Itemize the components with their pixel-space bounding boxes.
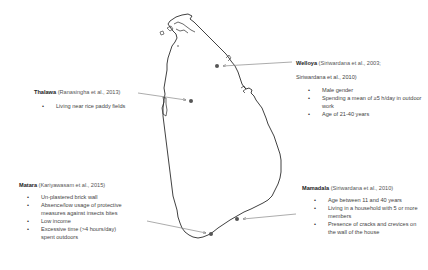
small-island — [160, 31, 164, 35]
matara-marker — [209, 232, 213, 236]
thalawa-reference: (Ranasingha et al., 2013) — [58, 89, 121, 95]
matara-annotation: Matara (Kariyawasam et al., 2015) Un-pla… — [19, 181, 149, 241]
matara-factor-list: Un-plastered brick wall Absence/low usag… — [19, 193, 149, 241]
small-island-dot — [177, 45, 178, 46]
puttalam-lagoon — [162, 97, 167, 116]
list-item: Male gender — [322, 86, 426, 94]
welloya-title: Welloya (Siriwardana et al., 2003; — [296, 59, 426, 67]
welloya-reference-2: Siriwardana et al., 2010) — [296, 73, 426, 81]
welloya-reference-1: (Siriwardana et al., 2003; — [319, 60, 381, 66]
list-item: Un-plastered brick wall — [41, 193, 149, 201]
thalawa-annotation: Thalawa (Ranasingha et al., 2013) Living… — [34, 88, 144, 110]
mamadala-factor-list: Age between 11 and 40 years Living in a … — [302, 196, 426, 236]
peninsula-detail — [174, 22, 195, 33]
list-item: Excessive time (>4 hours/day) spent outd… — [41, 225, 129, 241]
thalawa-title: Thalawa (Ranasingha et al., 2013) — [34, 88, 144, 96]
matara-arrow — [147, 221, 206, 233]
welloya-name: Welloya — [296, 60, 317, 66]
list-item: Low income — [41, 217, 149, 225]
thalawa-arrow — [138, 93, 186, 100]
mamadala-name: Mamadala — [302, 185, 329, 191]
thalawa-factor-list: Living near rice paddy fields — [34, 102, 144, 110]
welloya-factor-list: Male gender Spending a mean of ≥5 h/day … — [296, 86, 426, 118]
thalawa-name: Thalawa — [34, 89, 56, 95]
mamadala-marker — [235, 217, 239, 221]
matara-name: Matara — [19, 182, 37, 188]
list-item: Spending a mean of ≥5 h/day in outdoor w… — [322, 94, 422, 110]
list-item: Living near rice paddy fields — [56, 102, 131, 110]
matara-title: Matara (Kariyawasam et al., 2015) — [19, 181, 149, 189]
mamadala-title: Mamadala (Siriwardana et al., 2010) — [302, 184, 426, 192]
thalawa-marker — [189, 99, 193, 103]
list-item: Absence/low usage of protective measures… — [41, 201, 137, 217]
mamadala-reference: (Siriwardana et al., 2010) — [331, 185, 394, 191]
matara-reference: (Kariyawasam et al., 2015) — [39, 182, 106, 188]
list-item: Age of 21-40 years — [322, 110, 426, 118]
welloya-annotation: Welloya (Siriwardana et al., 2003; Siriw… — [296, 59, 426, 118]
welloya-marker — [215, 64, 219, 68]
mamadala-annotation: Mamadala (Siriwardana et al., 2010) Age … — [302, 184, 426, 236]
mamadala-arrow — [243, 214, 296, 219]
list-item: Age between 11 and 40 years — [328, 196, 426, 204]
list-item: Presence of cracks and crevices on the w… — [328, 220, 424, 236]
island-outline — [163, 14, 281, 238]
list-item: Living in a household with 5 or more mem… — [328, 204, 420, 220]
